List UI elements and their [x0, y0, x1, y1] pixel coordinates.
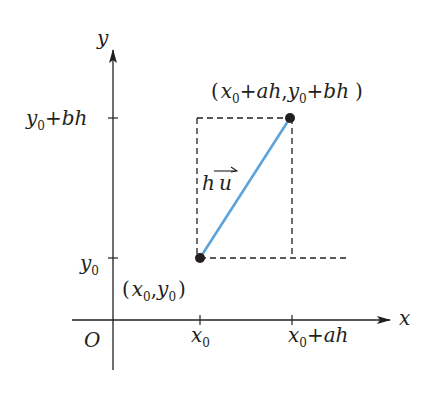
origin-label: O [84, 328, 100, 352]
tick-label-y0: y0 [79, 251, 99, 278]
tick-label-y0-bh: y0+bh [25, 106, 87, 133]
tick-label-x0: x0 [191, 323, 210, 350]
point-end-label: (x0+ah,y0+bh) [211, 79, 363, 106]
vector-label: hu [202, 171, 232, 195]
point-start-label: (x0,y0) [122, 277, 186, 304]
tick-label-x0-ah: x0+ah [288, 323, 348, 350]
point-end [285, 113, 295, 123]
x-axis-label: x [399, 306, 410, 330]
y-axis-label: y [96, 26, 109, 50]
vector-diagram: x y O x0 x0+ah y0 y0+bh hu (x0,y0) (x0 [0, 0, 434, 395]
vector-arrow-icon [214, 167, 237, 172]
point-start [195, 253, 205, 263]
